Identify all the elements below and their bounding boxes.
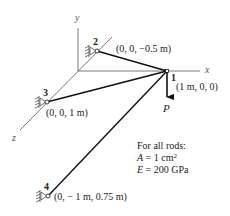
z-axis-label: z xyxy=(12,133,16,143)
modulus-value: = 200 GPa xyxy=(146,164,189,175)
rod-4-1 xyxy=(48,71,167,196)
modulus-symbol: E xyxy=(137,164,143,175)
joint-3 xyxy=(45,100,49,104)
node-2-coordinates: (0, 0, −0.5 m) xyxy=(116,44,171,54)
rod-2-1 xyxy=(97,51,167,71)
node-4-label: 4 xyxy=(44,182,49,192)
node-3-coordinates: (0, 0, 1 m) xyxy=(46,108,88,118)
material-properties: For all rods: A = 1 cm2 E = 200 GPa xyxy=(137,140,188,176)
node-4-coordinates: (0, − 1 m, 0.75 m) xyxy=(54,192,127,202)
node-2-label: 2 xyxy=(93,37,98,47)
rod-3-1 xyxy=(47,71,167,102)
truss-diagram xyxy=(0,0,230,216)
node-3-label: 3 xyxy=(43,88,48,98)
node-1-coordinates: (1 m, 0, 0) xyxy=(176,82,218,92)
joint-4 xyxy=(46,194,50,198)
area-exponent: 2 xyxy=(173,152,177,160)
area-value: = 1 cm xyxy=(146,152,174,163)
modulus-property: E = 200 GPa xyxy=(137,164,188,176)
joint-2 xyxy=(95,49,99,53)
properties-heading: For all rods: xyxy=(137,140,188,152)
load-label: P xyxy=(163,103,170,114)
y-axis-label: y xyxy=(75,13,79,23)
x-axis-label: x xyxy=(205,65,209,75)
area-property: A = 1 cm2 xyxy=(137,152,188,164)
area-symbol: A xyxy=(137,152,143,163)
